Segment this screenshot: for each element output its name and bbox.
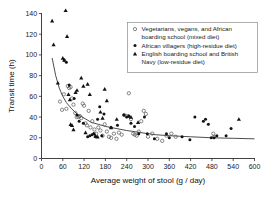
data-point-filled-triangle [50, 19, 54, 23]
legend-entry-label: Vegetarians, vegans, and African [142, 25, 233, 32]
legend-entry-label-continued: Navy (low-residue diet) [142, 58, 205, 65]
data-point-open-circle [156, 137, 159, 140]
data-point-filled-circle [100, 134, 103, 137]
data-point-open-circle [93, 128, 96, 131]
data-point-filled-triangle [64, 8, 68, 12]
data-point-filled-circle [225, 134, 228, 137]
y-tick-label: 40 [29, 114, 37, 121]
data-point-filled-circle [165, 132, 168, 135]
data-point-filled-circle [133, 125, 136, 128]
data-point-open-circle [97, 126, 100, 129]
data-point-filled-triangle [65, 34, 69, 38]
x-tick-label: 600 [249, 163, 261, 170]
data-point-filled-circle [122, 114, 125, 117]
data-point-filled-circle [230, 127, 233, 130]
data-point-open-circle [144, 112, 147, 115]
data-point-filled-circle [98, 105, 101, 108]
data-point-filled-triangle [98, 110, 102, 114]
data-point-open-circle [140, 120, 143, 123]
data-point-filled-circle [82, 122, 85, 125]
data-point-filled-circle [213, 136, 216, 139]
data-point-filled-triangle [105, 99, 109, 103]
data-point-filled-circle [215, 134, 218, 137]
data-point-open-circle [89, 126, 92, 129]
data-point-open-circle [170, 132, 173, 135]
data-point-filled-triangle [88, 92, 92, 96]
data-point-filled-circle [143, 116, 146, 119]
y-tick-label: 80 [29, 72, 37, 79]
y-tick-label: 140 [25, 10, 37, 17]
data-point-open-circle [120, 133, 123, 136]
data-point-open-circle [151, 132, 154, 135]
data-point-filled-circle [73, 97, 76, 100]
chart-legend: Vegetarians, vegans, and Africanboarding… [128, 23, 258, 73]
data-point-open-circle [142, 109, 145, 112]
legend-entry-label: African villagers (high-residue diet) [142, 42, 237, 49]
y-tick-label: 60 [29, 93, 37, 100]
data-point-filled-triangle [103, 87, 107, 91]
data-point-filled-circle [153, 137, 156, 140]
data-point-filled-circle [210, 136, 213, 139]
data-point-filled-circle [78, 120, 81, 123]
x-tick-label: 180 [100, 163, 112, 170]
x-tick-label: 120 [78, 163, 90, 170]
series-open-circle [58, 84, 215, 142]
legend-entry-label: English boarding school and British [142, 50, 239, 57]
data-point-filled-triangle [100, 116, 104, 120]
data-point-filled-circle [68, 83, 71, 86]
data-point-open-circle [105, 130, 108, 133]
data-point-open-circle [72, 103, 75, 106]
data-point-open-circle [65, 107, 68, 110]
data-point-filled-triangle [83, 131, 87, 135]
x-tick-label: 60 [59, 163, 67, 170]
data-point-filled-circle [188, 138, 191, 141]
data-point-open-circle [146, 135, 149, 138]
data-point-filled-circle [181, 135, 184, 138]
x-tick-label: 480 [206, 163, 218, 170]
x-tick-label: 420 [185, 163, 197, 170]
data-point-open-circle [127, 92, 130, 95]
data-point-open-circle [87, 109, 90, 112]
y-tick-label: 100 [25, 51, 37, 58]
data-point-filled-circle [116, 124, 119, 127]
y-tick-label: 0 [33, 155, 37, 162]
data-point-open-circle [60, 108, 63, 111]
x-tick-label: 540 [227, 163, 239, 170]
x-tick-label: 240 [121, 163, 133, 170]
data-point-filled-circle [146, 132, 149, 135]
data-point-open-circle [99, 129, 102, 132]
data-point-filled-triangle [79, 76, 83, 80]
data-point-filled-circle [204, 118, 207, 121]
data-point-filled-circle [76, 114, 79, 117]
data-point-filled-circle [129, 122, 132, 125]
data-point-filled-triangle [115, 117, 119, 121]
scatter-chart-figure: 0204060801001201400601201802403003604204… [0, 0, 269, 208]
x-tick-label: 300 [142, 163, 154, 170]
y-tick-label: 20 [29, 134, 37, 141]
data-point-filled-triangle [81, 84, 85, 88]
data-point-filled-circle [137, 132, 140, 135]
x-tick-label: 360 [163, 163, 175, 170]
data-point-open-circle [112, 132, 115, 135]
data-point-filled-circle [102, 112, 105, 115]
data-point-filled-triangle [86, 82, 90, 86]
x-axis-title: Average weight of stool (g / day) [91, 176, 206, 185]
data-point-filled-circle [193, 116, 196, 119]
legend-marker-filled-circle [134, 44, 137, 47]
data-point-open-circle [212, 132, 215, 135]
y-tick-label: 120 [25, 31, 37, 38]
legend-entry-label-continued: boarding school (mixed diet) [142, 33, 220, 40]
data-point-filled-circle [168, 136, 171, 139]
data-point-filled-triangle [51, 43, 55, 47]
data-point-filled-triangle [66, 92, 70, 96]
data-point-open-circle [115, 137, 118, 140]
data-point-open-circle [62, 93, 65, 96]
data-point-open-circle [58, 100, 61, 103]
chart-canvas: 0204060801001201400601201802403003604204… [0, 0, 269, 208]
data-point-filled-triangle [56, 81, 60, 85]
data-point-filled-triangle [71, 128, 75, 132]
data-point-filled-circle [207, 123, 210, 126]
data-point-open-circle [161, 139, 164, 142]
data-point-filled-triangle [68, 97, 72, 101]
data-point-open-circle [103, 123, 106, 126]
